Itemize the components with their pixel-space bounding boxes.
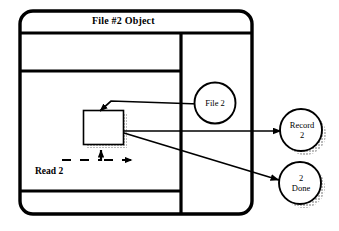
record2-circle-label: Record 2 — [281, 121, 323, 140]
inner-operation-box — [84, 111, 128, 149]
done2-circle-label: 2 Done — [280, 174, 322, 193]
file2-circle-label: File 2 — [195, 99, 235, 109]
done2-line-2: Done — [280, 184, 322, 194]
file2-line-1: File 2 — [195, 99, 235, 109]
object-interaction-diagram — [0, 0, 339, 231]
record2-line-2: 2 — [281, 131, 323, 141]
read-operation-label: Read 2 — [35, 167, 63, 177]
page-title: File #2 Object — [92, 16, 155, 26]
inner-box-outline — [84, 111, 124, 145]
diagram-canvas-root: File #2 Object Read 2 File 2 Record 2 2 … — [0, 0, 339, 231]
